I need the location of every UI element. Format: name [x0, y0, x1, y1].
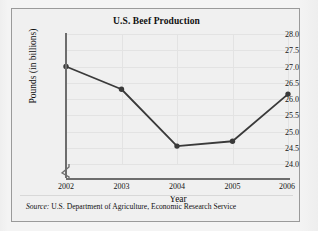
y-tick-label: 25.0	[253, 127, 299, 136]
x-tick-label: 2006	[279, 182, 295, 191]
y-tick-label: 26.0	[253, 95, 299, 104]
y-tick-label: 24.0	[253, 160, 299, 169]
y-tick-label: 26.5	[253, 78, 299, 87]
data-series-line	[66, 34, 288, 179]
x-tick-label: 2004	[169, 182, 185, 191]
chart-title: U.S. Beef Production	[12, 16, 301, 26]
y-tick-label: 27.0	[253, 62, 299, 71]
source-label: Source:	[26, 202, 49, 211]
x-tick-label: 2005	[225, 182, 241, 191]
y-axis-title: Pounds (in billions)	[28, 1, 38, 131]
footer-divider	[20, 195, 293, 196]
y-tick-label: 28.0	[253, 30, 299, 39]
y-axis-line	[65, 33, 67, 178]
data-point-2003	[119, 87, 124, 92]
source-note: Source: U.S. Department of Agriculture, …	[26, 202, 236, 211]
y-tick-label: 25.5	[253, 111, 299, 120]
x-tick-label: 2002	[58, 182, 74, 191]
screenshot-root: U.S. Beef Production	[0, 0, 318, 231]
data-point-2004	[174, 143, 179, 148]
x-axis-line	[66, 178, 290, 180]
data-point-2005	[230, 139, 235, 144]
y-tick-label: 24.5	[253, 143, 299, 152]
y-tick-label: 27.5	[253, 46, 299, 55]
x-tick-label: 2003	[114, 182, 130, 191]
chart-figure-panel: U.S. Beef Production	[11, 8, 300, 222]
source-text: U.S. Department of Agriculture, Economic…	[49, 202, 236, 211]
